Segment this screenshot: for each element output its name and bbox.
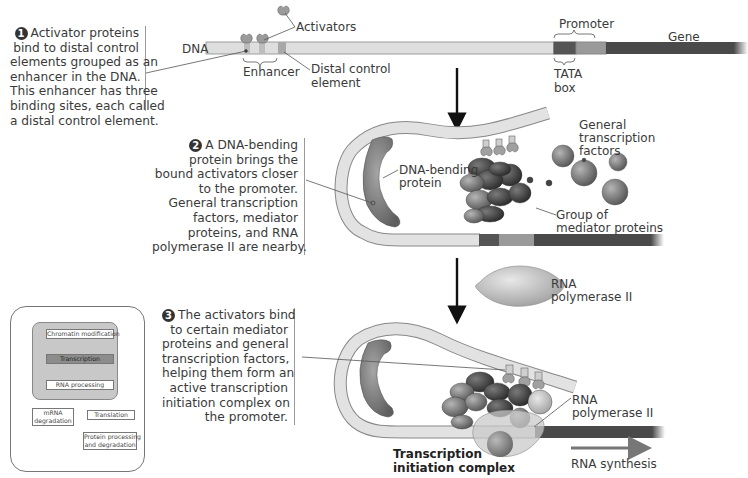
- tata-box-label: TATA box: [554, 67, 582, 95]
- dna-bending-protein-3: [360, 340, 394, 417]
- step-1-line: bind to distal control: [10, 41, 139, 56]
- step-1-line: enhancer in the DNA.: [10, 70, 139, 85]
- step-2-number-badge: 2: [189, 139, 202, 152]
- step-1-number-badge: 1: [15, 27, 28, 40]
- rna-polymerase-ii-bound-label: RNA polymerase II: [572, 394, 653, 420]
- label-line: mRNA: [33, 409, 73, 417]
- dna-bending-protein-label: DNA-bending protein: [399, 164, 478, 190]
- label-line: factors: [579, 145, 655, 158]
- rna-synthesis-label: RNA synthesis: [571, 458, 657, 471]
- mediator-proteins-label: Group of mediator proteins: [556, 209, 663, 235]
- step-2-line: protein brings the: [152, 153, 298, 168]
- transcription-initiation-complex-label: Transcription initiation complex: [393, 447, 515, 475]
- label-line: mediator proteins: [556, 222, 663, 235]
- dna-strand-1: [206, 42, 748, 54]
- label-line: Distal control: [311, 62, 391, 76]
- label-line: element: [311, 76, 391, 90]
- inset-protein-processing: Protein processing and degradation: [83, 432, 137, 450]
- label-line: degradation: [33, 417, 73, 425]
- step-1-line: binding sites, each called: [10, 99, 139, 114]
- step-2-line: General transcription: [152, 196, 298, 211]
- step-3-line: proteins and general: [162, 337, 288, 352]
- label-line: and degradation: [84, 441, 136, 449]
- step-3-line: active transcription: [162, 381, 288, 396]
- step-3-description: 3The activators bind to certain mediator…: [162, 308, 295, 425]
- inset-mrna-degradation: mRNA degradation: [32, 408, 74, 426]
- step-3-line: helping them form an: [162, 366, 288, 381]
- promoter-label: Promoter: [559, 18, 614, 31]
- dna-label: DNA: [182, 43, 208, 56]
- step-3-line: The activators bind: [178, 308, 296, 322]
- label-line: polymerase II: [551, 291, 632, 304]
- distal-control-element-label: Distal control element: [311, 62, 391, 90]
- step-1-line: Activator proteins: [31, 26, 139, 40]
- label-line: initiation complex: [393, 461, 515, 475]
- label-line: Transcription: [393, 447, 515, 461]
- inset-translation: Translation: [87, 410, 135, 420]
- step-3-line: the promoter.: [162, 410, 288, 425]
- step-1-line: a distal control element.: [10, 114, 139, 129]
- step-1-line: This enhancer has three: [10, 84, 139, 99]
- label-line: polymerase II: [572, 407, 653, 420]
- enhancer-label: Enhancer: [243, 66, 300, 79]
- inset-transcription: Transcription: [46, 354, 114, 364]
- step-3-line: to certain mediator: [162, 323, 288, 338]
- label-line: box: [554, 81, 582, 95]
- rna-polymerase-ii-label: RNA polymerase II: [551, 278, 632, 304]
- step-3-line: transcription factors,: [162, 352, 288, 367]
- step-1-line: elements grouped as an: [10, 55, 139, 70]
- inset-chromatin-modification: Chromatin modification: [46, 329, 114, 339]
- step-3-line: initiation complex on: [162, 396, 288, 411]
- step-3-number-badge: 3: [162, 309, 175, 322]
- step-1-description: 1Activator proteins bind to distal contr…: [10, 26, 146, 111]
- step-2-line: to the promoter.: [152, 182, 298, 197]
- step-2-line: bound activators closer: [152, 167, 298, 182]
- step-2-description: 2A DNA-bending protein brings the bound …: [152, 138, 305, 255]
- dna-bending-protein-2: [363, 137, 400, 227]
- gene-label: Gene: [668, 31, 700, 44]
- step-2-line: polymerase II are nearby.: [152, 240, 298, 255]
- label-line: protein: [399, 177, 478, 190]
- step-2-line: A DNA-bending: [205, 138, 298, 152]
- activator-proteins: [241, 6, 289, 43]
- step-2-line: factors, mediator: [152, 211, 298, 226]
- step-2-line: proteins, and RNA: [152, 226, 298, 241]
- inset-rna-processing: RNA processing: [46, 380, 114, 390]
- general-transcription-factors-label: General transcription factors: [579, 119, 655, 158]
- bound-activators-2: [481, 136, 518, 156]
- label-line: Protein processing: [84, 433, 136, 441]
- activators-label: Activators: [296, 21, 356, 34]
- label-line: TATA: [554, 67, 582, 81]
